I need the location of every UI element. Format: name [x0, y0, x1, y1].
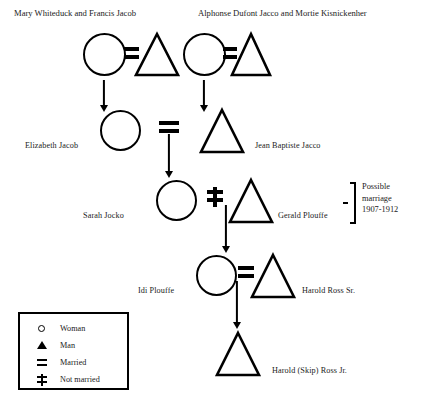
header-right-family: Alphonse Dufont Jacco and Mortie Kisnick… [198, 8, 367, 19]
gen3-woman-circle [156, 180, 197, 221]
gen3-not-married-symbol [207, 190, 223, 204]
genealogy-diagram: Mary Whiteduck and Francis Jacob Alphons… [0, 0, 431, 402]
gen1-couple-a-married-symbol [124, 47, 139, 60]
gen1-couple-b-married-symbol [223, 47, 237, 60]
gen4-man-label: Harold Ross Sr. [302, 286, 355, 296]
legend: Woman Man Married Not married [18, 312, 129, 390]
gen3-descent-arrow [220, 205, 232, 253]
legend-label-woman: Woman [60, 323, 85, 334]
gen1-couple-a-woman-circle [83, 33, 126, 76]
legend-label-man: Man [60, 340, 75, 351]
gen4-descent-arrow [231, 281, 243, 329]
legend-row-not-married: Not married [20, 372, 127, 387]
legend-row-married: Married [20, 355, 127, 370]
gen3-man-triangle [226, 177, 276, 225]
man-triangle-icon [36, 338, 50, 353]
gen5-man-label: Harold (Skip) Ross Jr. [272, 366, 347, 376]
gen1-couple-a-man-triangle [133, 31, 181, 78]
equals-icon [36, 355, 50, 370]
woman-circle-icon [36, 321, 50, 336]
gen2-married-symbol [159, 121, 179, 134]
gen1-couple-b-woman-circle [183, 33, 226, 76]
gen2-woman-label: Elizabeth Jacob [25, 141, 78, 151]
possible-marriage-note: Possible marriage 1907-1912 [362, 181, 398, 216]
possible-marriage-note-line2: marriage [362, 193, 398, 205]
gen5-man-triangle [212, 330, 264, 378]
header-left-family: Mary Whiteduck and Francis Jacob [14, 8, 136, 19]
gen4-man-triangle [248, 252, 298, 300]
gen1-couple-a-descent-arrow [98, 80, 110, 112]
possible-marriage-bracket [347, 182, 356, 224]
not-equals-icon [36, 372, 50, 387]
legend-row-man: Man [20, 338, 127, 353]
gen4-woman-label: Idi Plouffe [138, 286, 174, 296]
legend-row-woman: Woman [20, 321, 127, 336]
gen2-man-triangle [197, 107, 247, 155]
gen2-woman-circle [100, 110, 141, 151]
legend-label-married: Married [60, 357, 86, 368]
gen2-descent-arrow [163, 134, 175, 178]
gen3-man-label: Gerald Plouffe [278, 211, 328, 221]
gen3-woman-label: Sarah Jocko [83, 211, 124, 221]
possible-marriage-note-line1: Possible [362, 181, 398, 193]
gen2-man-label: Jean Baptiste Jacco [255, 141, 321, 151]
legend-label-not-married: Not married [60, 374, 100, 385]
possible-marriage-note-line3: 1907-1912 [362, 204, 398, 216]
